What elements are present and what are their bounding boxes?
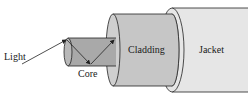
cladding-label: Cladding xyxy=(128,44,165,55)
light-label: Light xyxy=(4,51,26,62)
core-layer xyxy=(64,38,116,66)
fiber-diagram: Light Core Cladding Jacket xyxy=(0,0,248,98)
core-label: Core xyxy=(78,68,98,79)
jacket-label: Jacket xyxy=(199,44,224,55)
